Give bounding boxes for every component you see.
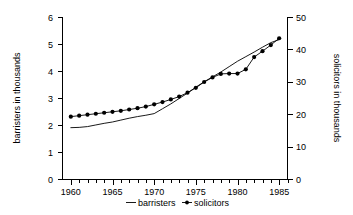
legend: barristers solicitors [126, 198, 230, 208]
y-axis-left-ticks: 0 1 2 3 4 5 6 [48, 13, 63, 185]
data-point-solicitors-1977 [210, 75, 214, 79]
data-point-solicitors-1960 [69, 115, 73, 119]
data-point-solicitors-1966 [119, 109, 123, 113]
data-point-solicitors-1963 [94, 112, 98, 116]
y2-tick-label-10: 10 [296, 142, 306, 152]
data-point-solicitors-1974 [185, 91, 189, 95]
chart-container: 0 1 2 3 4 5 6 0 10 20 30 40 50 196019651… [0, 0, 353, 215]
y-axis-right-title: solicitors in thousands [332, 54, 342, 143]
chart-svg: 0 1 2 3 4 5 6 0 10 20 30 40 50 196019651… [0, 0, 353, 215]
data-point-solicitors-1973 [177, 94, 181, 98]
y2-tick-label-20: 20 [296, 110, 306, 120]
data-point-solicitors-1982 [252, 55, 256, 59]
y-axis-right-ticks: 0 10 20 30 40 50 [288, 13, 307, 185]
x-tick-label-1975: 1975 [186, 187, 206, 197]
y-tick-label-0: 0 [48, 175, 53, 185]
series-group [69, 36, 282, 128]
x-tick-label-1980: 1980 [227, 187, 247, 197]
x-tick-label-1985: 1985 [269, 187, 289, 197]
data-point-solicitors-1980 [235, 71, 239, 75]
data-point-solicitors-1976 [202, 80, 206, 84]
y-tick-label-3: 3 [48, 94, 53, 104]
x-axis-ticks [72, 180, 289, 185]
y2-tick-label-40: 40 [296, 45, 306, 55]
data-point-solicitors-1985 [277, 36, 281, 40]
data-point-solicitors-1962 [85, 113, 89, 117]
data-point-solicitors-1971 [160, 100, 164, 104]
y-tick-label-1: 1 [48, 148, 53, 158]
y2-tick-label-0: 0 [296, 175, 301, 185]
series-markers-solicitors [69, 36, 282, 119]
series-line-solicitors [71, 38, 279, 116]
data-point-solicitors-1972 [169, 97, 173, 101]
y2-tick-label-30: 30 [296, 77, 306, 87]
data-point-solicitors-1968 [135, 106, 139, 110]
data-point-solicitors-1964 [102, 111, 106, 115]
data-point-solicitors-1967 [127, 107, 131, 111]
data-point-solicitors-1981 [244, 67, 248, 71]
y-tick-label-5: 5 [48, 40, 53, 50]
series-line-barristers [71, 40, 279, 128]
data-point-solicitors-1975 [194, 86, 198, 90]
data-point-solicitors-1961 [77, 114, 81, 118]
y-tick-label-2: 2 [48, 121, 53, 131]
legend-label-barristers: barristers [138, 198, 176, 208]
y2-tick-label-50: 50 [296, 13, 306, 23]
y-tick-label-4: 4 [48, 67, 53, 77]
x-tick-label-1965: 1965 [102, 187, 122, 197]
x-tick-label-1960: 1960 [61, 187, 81, 197]
x-tick-label-1970: 1970 [144, 187, 164, 197]
y-tick-label-6: 6 [48, 13, 53, 23]
data-point-solicitors-1984 [269, 43, 273, 47]
legend-label-solicitors: solicitors [194, 198, 230, 208]
data-point-solicitors-1965 [110, 110, 114, 114]
data-point-solicitors-1970 [152, 102, 156, 106]
data-point-solicitors-1983 [260, 49, 264, 53]
data-point-solicitors-1979 [227, 71, 231, 75]
y-axis-left-title: barristers in thousands [12, 52, 22, 144]
data-point-solicitors-1978 [219, 72, 223, 76]
x-axis-tick-labels: 196019651970197519801985 [61, 187, 289, 197]
legend-swatch-solicitors-marker [185, 201, 189, 205]
data-point-solicitors-1969 [144, 105, 148, 109]
